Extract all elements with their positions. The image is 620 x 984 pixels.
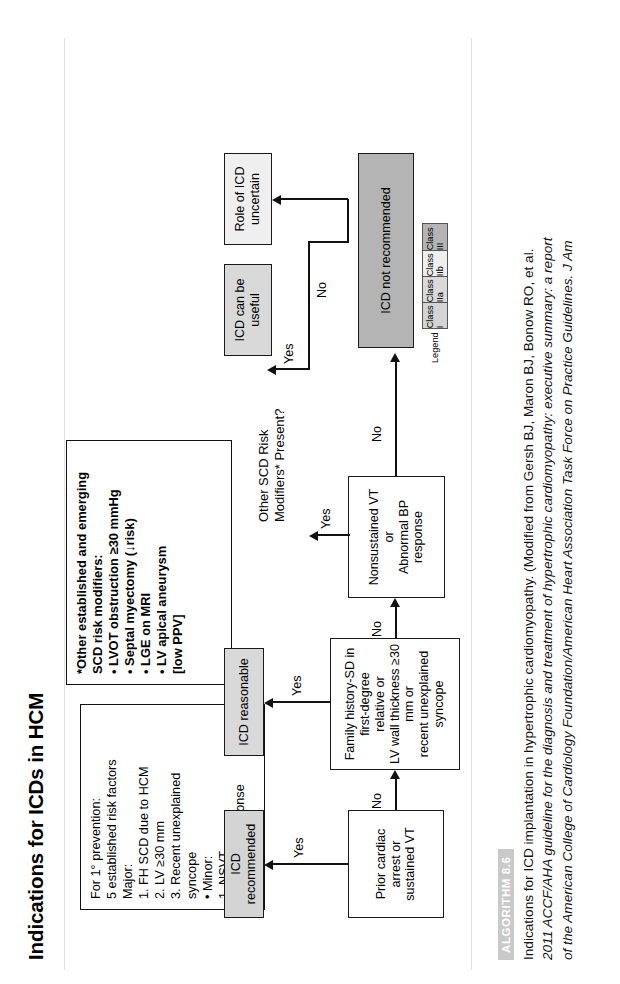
edge-label-no1: No <box>370 793 384 809</box>
legend: Legend Class I Class IIa Class IIb Class… <box>422 223 448 363</box>
edge-no1-arrowhead <box>390 770 400 779</box>
sheet-top-rule <box>64 38 65 970</box>
legend-title: Legend <box>422 329 448 363</box>
node-nonsustained-vt[interactable]: Nonsustained VT or Abnormal BP response <box>348 476 445 598</box>
edge-no3-arrowhead <box>390 353 400 362</box>
edge-yes2-arrowhead <box>264 698 273 708</box>
edge-label-no4: No <box>315 282 329 298</box>
edge-split-no-drop <box>308 241 348 243</box>
legend-cell-class-iib: Class IIb <box>423 250 447 276</box>
edge-split-yes-riser <box>274 368 309 370</box>
node-icd-not-recommended[interactable]: ICD not recommended <box>358 153 414 348</box>
edge-label-yes2: Yes <box>290 675 304 696</box>
algorithm-page: Indications for ICDs in HCM For 1° preve… <box>0 0 620 984</box>
edge-label-yes4: Yes <box>282 343 296 364</box>
node-prior-cardiac-arrest[interactable]: Prior cardiac arrest or sustained VT <box>348 810 444 918</box>
algorithm-sheet: Indications for ICDs in HCM For 1° preve… <box>18 14 604 970</box>
legend-cell-class-iia: Class IIa <box>423 276 447 302</box>
edge-no2-line <box>395 606 397 638</box>
node-role-of-icd-uncertain[interactable]: Role of ICD uncertain <box>224 153 272 245</box>
node-icd-recommended[interactable]: ICD recommended <box>224 810 264 918</box>
caption-block: ALGORITHM 8.6 Indications for ICD implan… <box>496 30 577 960</box>
edge-no1-line <box>395 778 397 810</box>
edge-label-no3: No <box>370 426 384 442</box>
caption-line-1: Indications for ICD implantation in hype… <box>519 30 538 960</box>
edge-no2-arrowhead <box>390 598 400 607</box>
sheet-bottom-rule <box>471 38 472 970</box>
edge-yes1-line <box>273 863 349 865</box>
edge-no3-line <box>395 361 397 476</box>
scd-risk-modifiers-box: *Other established and emerging SCD risk… <box>66 440 232 685</box>
algorithm-badge: ALGORITHM 8.6 <box>498 849 514 960</box>
edge-no4-arrowhead <box>272 195 281 205</box>
caption-text: Indications for ICD implantation in hype… <box>519 30 577 960</box>
legend-cells: Class I Class IIa Class IIb Class III <box>422 223 448 329</box>
node-icd-can-be-useful[interactable]: ICD can be useful <box>224 264 272 356</box>
legend-cell-class-iii: Class III <box>423 224 447 250</box>
edge-split-no-run <box>347 199 349 243</box>
caption-line-2: 2011 ACCF/AHA guideline for the diagnosi… <box>538 30 557 960</box>
page-title: Indications for ICDs in HCM <box>24 400 48 960</box>
node-icd-reasonable[interactable]: ICD reasonable <box>224 648 264 756</box>
edge-yes2-line <box>273 701 331 703</box>
edge-split-line <box>308 242 310 370</box>
edge-label-no2: No <box>370 621 384 637</box>
edge-no4-riser <box>280 198 348 200</box>
edge-label-yes1: Yes <box>292 837 306 858</box>
edge-yes3-line <box>318 534 350 536</box>
edge-label-yes3: Yes <box>319 508 333 529</box>
edge-yes1-arrowhead <box>264 860 273 870</box>
branch-question-risk-modifiers: Other SCD Risk Modifiers* Present? <box>256 362 287 522</box>
edge-yes4-arrowhead <box>267 365 276 375</box>
legend-cell-class-i: Class I <box>423 302 447 328</box>
edge-yes3-arrowhead <box>309 531 318 541</box>
node-family-history[interactable]: Family history-SD in first-degree relati… <box>330 638 460 770</box>
caption-line-3: of the American College of Cardiology Fo… <box>558 30 577 960</box>
